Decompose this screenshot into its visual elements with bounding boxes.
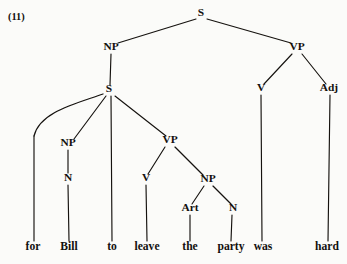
- edge-adj-hard: [328, 95, 330, 241]
- node-vp-main: VP: [289, 40, 304, 52]
- syntax-tree-canvas: SNPVPSVAdjNPVPNVNPArtN forBilltoleavethe…: [0, 0, 347, 264]
- leaf-leaf-party: party: [217, 240, 244, 253]
- node-np-subject: NP: [103, 40, 118, 52]
- edge-s-vp: [207, 19, 291, 43]
- leaf-leaf-was: was: [254, 240, 273, 253]
- edge-vp-np-obj: [175, 147, 203, 175]
- node-n-bill: N: [64, 171, 73, 183]
- edge-n-bill: [68, 185, 69, 241]
- leaf-leaf-the: the: [182, 240, 197, 253]
- node-adj-main: Adj: [320, 81, 339, 93]
- node-s-embedded: S: [106, 82, 112, 94]
- node-vp-embedded: VP: [162, 133, 177, 145]
- node-n-party: N: [229, 201, 238, 213]
- edge-vp-v-leave: [148, 147, 165, 174]
- leaf-leaf-hard: hard: [315, 240, 339, 253]
- node-v-leave: V: [142, 171, 151, 183]
- tree-node-layer: SNPVPSVAdjNPVPNVNPArtN: [60, 6, 338, 213]
- leaf-leaf-bill: Bill: [60, 240, 78, 253]
- node-np-object: NP: [200, 172, 215, 184]
- edge-s-np: [118, 19, 196, 43]
- edge-vp-adj: [302, 54, 326, 84]
- edge-s-for-curve: [34, 94, 103, 136]
- syntax-tree-figure: SNPVPSVAdjNPVPNVNPArtN forBilltoleavethe…: [0, 0, 347, 264]
- edge-s-vp-emb: [115, 96, 166, 136]
- edge-v-leave: [146, 185, 147, 241]
- edge-v-was: [261, 95, 262, 241]
- example-number: (11): [8, 11, 25, 23]
- node-np-bill: NP: [60, 136, 75, 148]
- node-s-root: S: [198, 6, 204, 18]
- edge-vp-v: [264, 54, 292, 84]
- node-v-main: V: [257, 81, 266, 93]
- leaf-leaf-for: for: [26, 240, 41, 253]
- edge-np-s: [110, 54, 111, 85]
- leaf-leaf-leave: leave: [134, 240, 159, 253]
- leaf-leaf-to: to: [107, 240, 117, 253]
- edge-n-party: [231, 215, 232, 241]
- tree-leaf-layer: forBilltoleavethepartywashard: [26, 240, 340, 253]
- edge-s-to: [111, 96, 112, 241]
- node-art-the: Art: [181, 201, 198, 213]
